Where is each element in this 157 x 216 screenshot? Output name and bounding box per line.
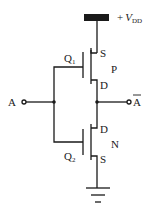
pmos-drain-tab [91, 80, 97, 102]
nmos-source-label: S [100, 153, 106, 165]
output-terminal[interactable] [127, 100, 131, 104]
vdd-label: +VDD [117, 11, 142, 25]
pmos-source-tab [91, 50, 97, 53]
pmos-gate-wire [54, 67, 83, 102]
input-label: A [8, 96, 16, 108]
output-label: A [133, 96, 141, 108]
input-terminal[interactable] [22, 100, 26, 104]
nmos-drain-label: D [100, 123, 108, 135]
vdd-rail [84, 14, 109, 21]
pmos-source-label: S [100, 47, 106, 59]
nmos-source-tab [91, 156, 97, 188]
ground-icon [86, 188, 110, 202]
output-junction-dot [95, 100, 99, 104]
cmos-inverter-diagram: +VDD Q1 S P D A A D N Q2 S [0, 0, 157, 216]
nmos-drain-tab [91, 102, 97, 128]
pmos-drain-label: D [100, 79, 108, 91]
pmos-type-label: P [111, 63, 117, 75]
nmos-gate-wire [54, 102, 83, 142]
q2-label: Q2 [64, 150, 76, 164]
input-junction-dot [52, 100, 56, 104]
nmos-type-label: N [111, 138, 119, 150]
q1-label: Q1 [64, 52, 76, 66]
